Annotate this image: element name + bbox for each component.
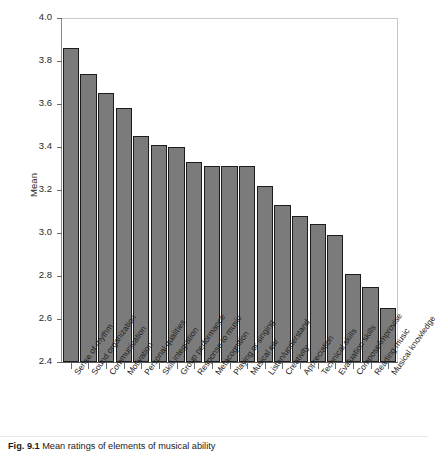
y-tick: 2.6 (0, 319, 62, 320)
y-tick: 2.8 (0, 276, 62, 277)
y-axis-title: Mean (28, 155, 39, 215)
x-tick-mark (106, 363, 107, 369)
y-tick-label: 2.4 (39, 355, 52, 366)
y-tick-label: 2.6 (39, 312, 52, 323)
y-tick-label: 3.8 (39, 54, 52, 65)
bar (63, 48, 79, 362)
y-tick: 2.4 (0, 362, 62, 363)
y-tick-label: 2.8 (39, 269, 52, 280)
figure-caption-text: Mean ratings of elements of musical abil… (42, 441, 215, 451)
y-tick: 3.2 (0, 190, 62, 191)
y-tick: 3.4 (0, 147, 62, 148)
figure-caption: Fig. 9.1 Mean ratings of elements of mus… (8, 441, 423, 451)
y-tick-label: 3.4 (39, 140, 52, 151)
y-tick-label: 3.2 (39, 183, 52, 194)
y-tick: 3.0 (0, 233, 62, 234)
bar (80, 74, 96, 362)
y-tick-label: 4.0 (39, 11, 52, 22)
bar (151, 145, 167, 362)
y-tick-label: 3.0 (39, 226, 52, 237)
caption-divider (0, 436, 428, 437)
y-tick: 4.0 (0, 18, 62, 19)
y-tick: 3.6 (0, 104, 62, 105)
bar-series (62, 18, 397, 362)
figure-caption-number: Fig. 9.1 (8, 441, 40, 451)
x-tick-mark (71, 363, 72, 369)
y-tick-label: 3.6 (39, 97, 52, 108)
y-tick: 3.8 (0, 61, 62, 62)
